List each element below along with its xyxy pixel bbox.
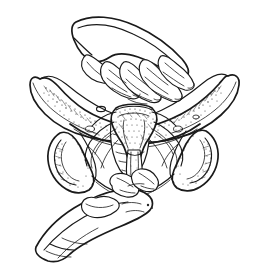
illustration-figure: Bimanual pelvic examination Uterus palpa… <box>0 0 267 266</box>
pelvic-exam-line-drawing <box>0 0 267 266</box>
